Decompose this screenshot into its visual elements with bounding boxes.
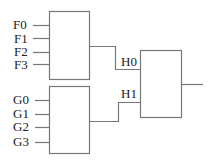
diagram-lines — [0, 0, 215, 163]
mux-f-box — [50, 12, 90, 80]
h1-wire — [90, 103, 140, 122]
label-g0: G0 — [13, 93, 29, 106]
label-g2: G2 — [13, 120, 29, 133]
label-g3: G3 — [13, 135, 29, 148]
label-h1: H1 — [121, 87, 137, 100]
mux-g-box — [50, 87, 90, 154]
mux-diagram: F0 F1 F2 F3 G0 G1 G2 G3 H0 H1 — [0, 0, 215, 163]
label-h0: H0 — [121, 55, 137, 68]
mux-h-box — [141, 51, 182, 118]
label-f3: F3 — [14, 58, 28, 71]
label-f0: F0 — [13, 18, 27, 31]
